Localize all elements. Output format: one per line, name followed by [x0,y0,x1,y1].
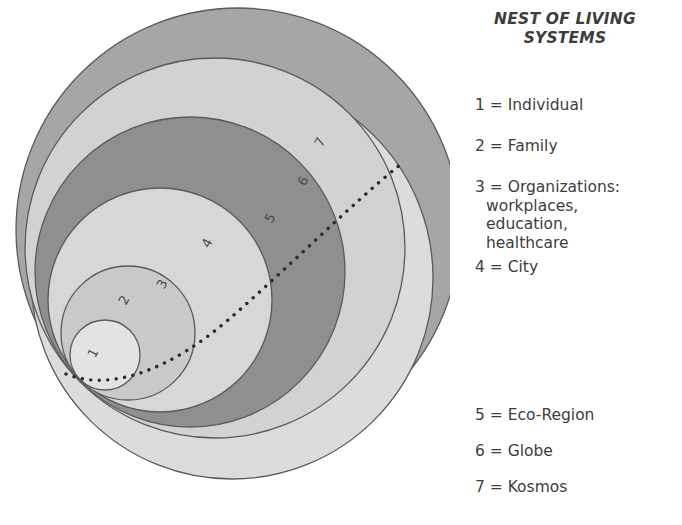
legend-entry-6: 6 = Globe [475,442,553,461]
circle-1 [70,320,140,390]
circles-group [16,8,450,479]
legend-entry-4: 4 = City [475,258,538,277]
legend-entry-label: 5 = Eco-Region [475,406,594,424]
legend-entry-7: 7 = Kosmos [475,478,567,497]
legend-entry-label: 1 = Individual [475,96,583,114]
legend-entry-detail: workplaces, education, healthcare [475,197,620,253]
nest-diagram: 1234567 [0,0,450,525]
legend-entry-label: 3 = Organizations: [475,178,620,196]
legend-entry-5: 5 = Eco-Region [475,406,594,425]
legend-entry-label: 4 = City [475,258,538,276]
legend-entry-label: 2 = Family [475,137,558,155]
legend-title: NEST OF LIVING SYSTEMS [460,10,670,48]
nested-circles-svg: 1234567 [0,0,450,525]
legend-entry-1: 1 = Individual [475,96,583,115]
legend-entry-3: 3 = Organizations:workplaces, education,… [475,178,620,252]
legend-entry-label: 7 = Kosmos [475,478,567,496]
legend-panel: NEST OF LIVING SYSTEMS 1 = Individual2 =… [452,0,682,525]
legend-entry-2: 2 = Family [475,137,558,156]
legend-entry-label: 6 = Globe [475,442,553,460]
